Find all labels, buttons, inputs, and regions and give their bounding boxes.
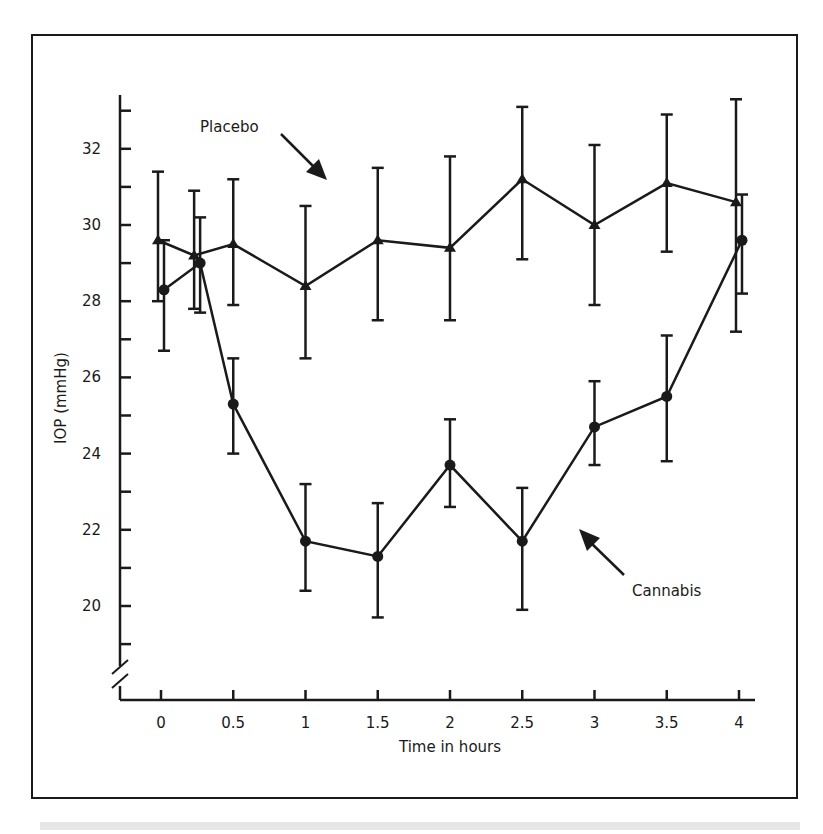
- y-axis: 20222426283032: [82, 95, 131, 700]
- y-axis-title: IOP (mmHg): [52, 352, 70, 444]
- placebo-annotation: Placebo: [200, 118, 327, 180]
- x-tick-label: 0: [156, 714, 166, 732]
- series-placebo: [152, 99, 742, 358]
- circle-marker-icon: [372, 551, 383, 562]
- triangle-marker-icon: [516, 173, 528, 183]
- arrow-icon: [281, 134, 317, 170]
- y-tick-label: 20: [82, 597, 101, 615]
- y-tick-label: 24: [82, 445, 101, 463]
- x-tick-label: 3: [590, 714, 600, 732]
- cannabis-label: Cannabis: [632, 582, 702, 600]
- circle-marker-icon: [445, 460, 456, 471]
- circle-marker-icon: [195, 258, 206, 269]
- x-tick-label: 4: [734, 714, 744, 732]
- arrow-icon: [588, 540, 624, 575]
- figure-frame: [32, 35, 797, 798]
- circle-marker-icon: [517, 536, 528, 547]
- triangle-marker-icon: [661, 177, 673, 187]
- x-tick-label: 2.5: [510, 714, 534, 732]
- circle-marker-icon: [661, 391, 672, 402]
- y-tick-label: 30: [82, 216, 101, 234]
- y-tick-label: 28: [82, 292, 101, 310]
- x-tick-label: 1.5: [366, 714, 390, 732]
- circle-marker-icon: [589, 421, 600, 432]
- circle-marker-icon: [300, 536, 311, 547]
- x-axis: 00.511.522.533.54: [120, 690, 755, 732]
- y-tick-label: 32: [82, 140, 101, 158]
- cannabis-annotation: Cannabis: [579, 529, 702, 600]
- triangle-marker-icon: [227, 238, 239, 248]
- plot-area: [152, 99, 748, 617]
- caption-bleed: [40, 822, 800, 830]
- circle-marker-icon: [737, 235, 748, 246]
- x-tick-label: 1: [301, 714, 311, 732]
- series-cannabis: [158, 195, 748, 618]
- y-tick-label: 26: [82, 368, 101, 386]
- iop-chart: 20222426283032 00.511.522.533.54 Time in…: [0, 0, 823, 834]
- x-tick-label: 2: [445, 714, 455, 732]
- y-tick-label: 22: [82, 521, 101, 539]
- axis-break-mark: [112, 674, 128, 688]
- circle-marker-icon: [228, 399, 239, 410]
- placebo-label: Placebo: [200, 118, 259, 136]
- series-line: [158, 179, 736, 286]
- circle-marker-icon: [159, 284, 170, 295]
- x-tick-label: 0.5: [221, 714, 245, 732]
- triangle-marker-icon: [372, 234, 384, 244]
- x-tick-label: 3.5: [655, 714, 679, 732]
- series-line: [164, 240, 742, 556]
- x-axis-title: Time in hours: [398, 738, 501, 756]
